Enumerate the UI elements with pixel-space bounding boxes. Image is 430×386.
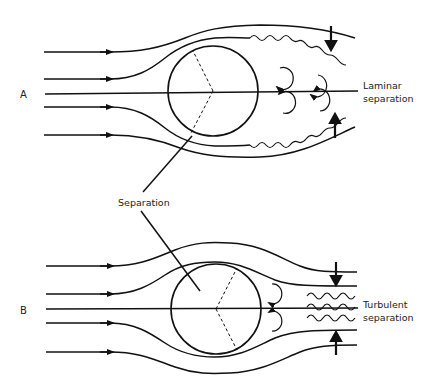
separation-pointer-lines <box>141 136 200 291</box>
panel-b-streamlines <box>46 243 358 374</box>
panel-b-vortices <box>269 284 282 331</box>
panel-b-turbulent-waves <box>307 293 355 321</box>
panel-a-vortices <box>277 67 330 113</box>
flow-separation-diagram <box>0 0 430 386</box>
separation-label: Separation <box>118 196 170 209</box>
panel-label-a: A <box>20 88 27 101</box>
turbulent-label-line2: separation <box>363 311 414 324</box>
turbulent-label-line1: Turbulent <box>363 298 414 311</box>
panel-label-b: B <box>20 304 27 317</box>
laminar-separation-label: Laminar separation <box>363 79 414 105</box>
panel-a-wake-width-arrows <box>326 26 340 138</box>
panel-a-streamlines <box>44 25 358 157</box>
turbulent-separation-label: Turbulent separation <box>363 298 414 324</box>
laminar-label-line1: Laminar <box>363 79 414 92</box>
laminar-label-line2: separation <box>363 92 414 105</box>
